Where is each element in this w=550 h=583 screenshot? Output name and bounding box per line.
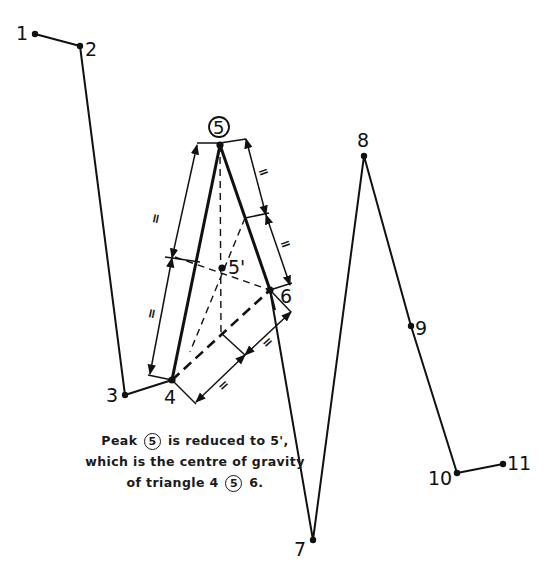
label-9: 9 [415,317,427,339]
caption-line-3: of triangle 4 5 6. [60,472,330,493]
circled-5-icon: 5 [225,475,242,492]
svg-text:=: = [278,235,293,253]
svg-text:=: = [147,212,164,226]
label-5: 5 [213,117,224,138]
label-10: 10 [428,467,452,489]
svg-text:=: = [214,376,232,394]
label-5-prime: 5' [228,256,245,278]
peak-reduction-diagram: = = = = = = 1 2 3 4 5 6 7 8 9 10 11 5' [0,0,550,583]
label-11: 11 [507,452,531,474]
svg-text:=: = [256,163,271,181]
centroid-dot [218,264,225,271]
equal-marks: = = = = = = [143,163,293,394]
caption-line-2: which is the centre of gravity [60,451,330,472]
svg-text:=: = [143,307,160,321]
label-4: 4 [164,386,176,408]
label-8: 8 [357,129,369,151]
label-6: 6 [280,285,292,307]
label-2: 2 [85,38,97,60]
svg-text:=: = [258,333,276,351]
caption-line-1: Peak 5 is reduced to 5', [60,430,330,451]
label-1: 1 [16,22,28,44]
label-3: 3 [106,384,118,406]
caption: Peak 5 is reduced to 5', which is the ce… [60,430,330,493]
triangle-4-5-6 [172,145,275,380]
circled-5-icon: 5 [144,433,161,450]
label-7: 7 [294,538,306,560]
